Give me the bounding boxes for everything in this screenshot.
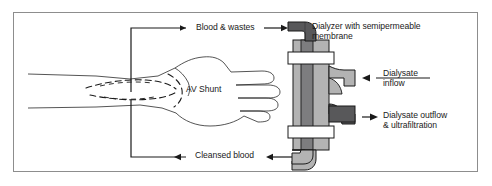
label-blood-wastes: Blood & wastes — [196, 22, 255, 32]
dialyzer-outlet-pipe — [292, 150, 313, 164]
arrow-blood-wastes-right — [180, 25, 186, 31]
arrow-dialysate-inflow — [362, 74, 370, 81]
hand-fingers — [231, 71, 280, 122]
hemodialysis-diagram: Blood & wastes Dialyzer with semipermeab… — [0, 0, 492, 186]
cleansed-blood-tubing — [131, 100, 186, 157]
label-dialysate-outflow: Dialysate outflow & ultrafiltration — [383, 110, 447, 131]
label-dialysate-inflow: Dialysate inflow — [383, 68, 418, 89]
dialysate-upper-flare — [329, 78, 342, 94]
arrow-cleansed-to-arm — [174, 154, 181, 160]
dialysate-outflow-port — [329, 104, 355, 124]
label-dialyzer: Dialyzer with semipermeable membrane — [312, 21, 421, 42]
label-av-shunt: AV Shunt — [186, 84, 221, 94]
label-cleansed-blood: Cleansed blood — [195, 150, 254, 160]
av-shunt-inner-marks — [100, 82, 154, 99]
arrow-dialysate-outflow — [370, 113, 378, 120]
arrow-to-dialyzer-inlet — [281, 25, 288, 31]
arrow-cleansed-from-dialyzer — [266, 154, 273, 160]
